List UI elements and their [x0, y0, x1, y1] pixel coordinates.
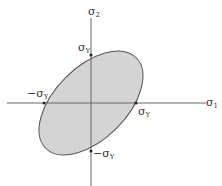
- sigma2-axis-label: σ2: [88, 6, 100, 19]
- intercept-left-label: −σY: [27, 88, 48, 101]
- sigma1-axis-label: σ1: [206, 97, 218, 110]
- intercept-bottom-label: −σY: [93, 148, 114, 161]
- intercept-left-dot: [43, 102, 46, 105]
- intercept-top-label: σY: [78, 42, 90, 55]
- intercept-right-label: σY: [138, 106, 150, 119]
